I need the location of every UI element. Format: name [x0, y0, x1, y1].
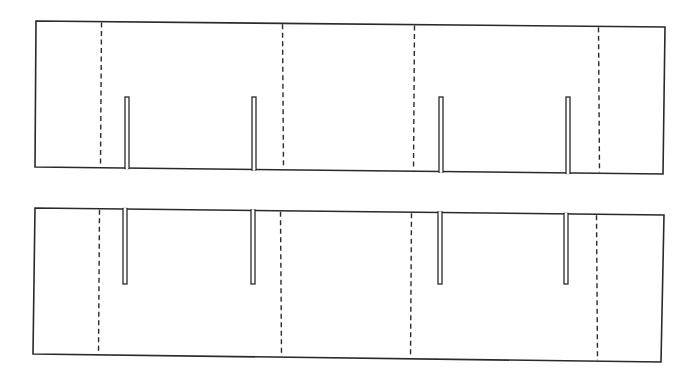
bottom-panel — [33, 208, 664, 362]
slit — [251, 210, 255, 284]
slit — [252, 97, 256, 170]
slit — [439, 97, 443, 172]
fold-line — [99, 210, 100, 354]
top-panel — [35, 21, 665, 174]
die-cut-template-diagram — [0, 0, 696, 377]
fold-line — [599, 27, 600, 172]
slit — [564, 213, 568, 284]
fold-line — [283, 24, 284, 168]
slit — [566, 97, 570, 173]
fold-line — [597, 215, 598, 360]
diagram-canvas — [0, 0, 696, 377]
fold-line — [101, 23, 102, 167]
slit — [125, 97, 129, 169]
slit — [123, 209, 127, 284]
slit — [438, 212, 442, 284]
panel-outline — [33, 208, 664, 362]
fold-line — [414, 26, 415, 171]
fold-line — [411, 213, 412, 358]
fold-line — [281, 212, 282, 356]
